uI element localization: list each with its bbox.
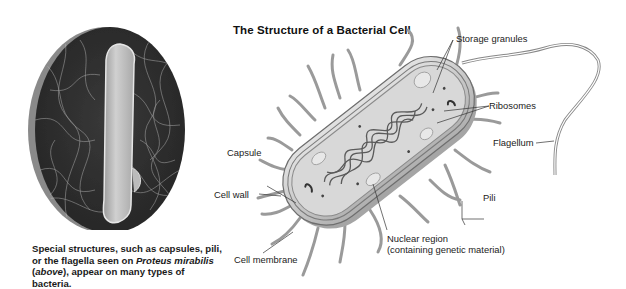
label-nuclear-region: Nuclear region [387,233,448,244]
label-ribosomes: Ribosomes [489,100,536,111]
label-capsule: Capsule [227,147,261,158]
label-nuclear-region-detail: (containing genetic material) [387,244,505,255]
label-storage-granules: Storage granules [456,33,527,44]
label-cell-wall: Cell wall [214,189,249,200]
label-cell-membrane: Cell membrane [234,254,298,265]
label-pili: Pili [483,192,496,203]
label-flagellum: Flagellum [493,137,534,148]
